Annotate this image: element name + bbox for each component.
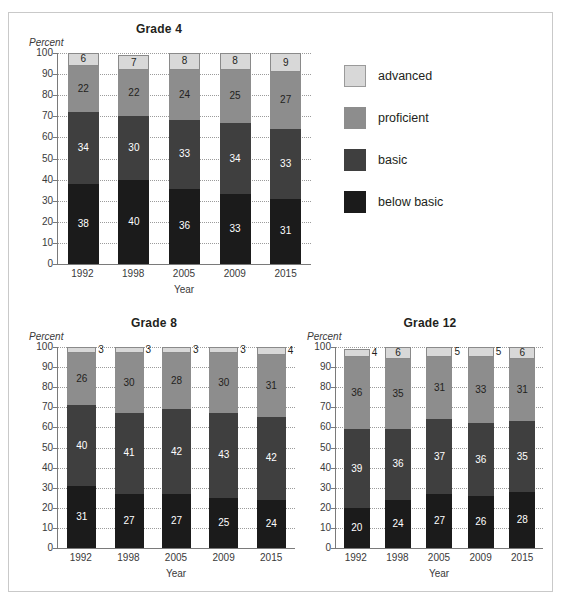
value-label-grade-4-1998-below-basic: 40 — [128, 217, 139, 227]
segment-grade-8-1992-proficient: 26 — [67, 353, 96, 405]
legend-item-proficient[interactable]: proficient — [344, 107, 443, 129]
bar-grade-8-2009[interactable]: 3304325 — [209, 347, 238, 548]
x-tick-grade-8-2005: 2005 — [152, 552, 199, 563]
bar-grade-12-1992[interactable]: 4363920 — [344, 347, 370, 548]
segment-grade-12-1998-advanced: 6 — [385, 347, 411, 359]
bar-grade-12-1998[interactable]: 6353624 — [385, 347, 411, 548]
x-axis-labels-grade-12: 19921998200520092015 — [335, 552, 543, 563]
bar-grade-12-2015[interactable]: 6313528 — [509, 347, 535, 548]
y-tickmark-grade-12-0 — [331, 548, 335, 549]
y-tickmark-grade-8-30 — [53, 488, 57, 489]
segment-grade-12-2005-below-basic: 27 — [426, 494, 452, 548]
bar-grade-8-2005[interactable]: 3284227 — [162, 347, 191, 548]
segment-grade-4-2005-proficient: 24 — [169, 70, 200, 120]
segment-grade-12-2009-basic: 36 — [468, 423, 494, 495]
value-label-grade-4-1998-proficient: 22 — [128, 88, 139, 98]
y-tickmark-grade-8-100 — [53, 347, 57, 348]
x-axis-title-grade-4: Year — [57, 284, 311, 295]
bar-grade-8-2015[interactable]: 4314224 — [257, 347, 286, 548]
chart-panel-grade-12: Grade 12 Percent 43639206353624531372753… — [305, 313, 550, 588]
chart-title-grade-8: Grade 8 — [59, 316, 249, 330]
bar-grade-4-2015[interactable]: 9273331 — [270, 53, 301, 264]
bar-grade-8-1998[interactable]: 3304127 — [115, 347, 144, 548]
value-label-grade-8-2005-basic: 42 — [171, 447, 182, 457]
value-label-grade-8-1992-proficient: 26 — [76, 374, 87, 384]
value-label-grade-12-2005-below-basic: 27 — [434, 516, 445, 526]
value-label-grade-8-2015-advanced: 4 — [288, 346, 294, 356]
value-label-grade-8-2005-below-basic: 27 — [171, 516, 182, 526]
y-tickmark-grade-4-30 — [53, 201, 57, 202]
bar-grade-8-1992[interactable]: 3264031 — [67, 347, 96, 548]
x-tick-grade-4-1992: 1992 — [57, 268, 108, 279]
x-tick-grade-4-2009: 2009 — [209, 268, 260, 279]
y-tickmark-grade-8-20 — [53, 508, 57, 509]
value-label-grade-8-1992-advanced: 3 — [98, 345, 104, 355]
value-label-grade-4-1992-below-basic: 38 — [78, 219, 89, 229]
legend-item-below-basic[interactable]: below basic — [344, 191, 443, 213]
legend-item-basic[interactable]: basic — [344, 149, 443, 171]
value-label-grade-4-2015-proficient: 27 — [280, 95, 291, 105]
segment-grade-12-1998-below-basic: 24 — [385, 500, 411, 548]
y-tick-grade-4-50: 50 — [31, 154, 53, 164]
y-tickmark-grade-4-90 — [53, 74, 57, 75]
segment-grade-4-1992-below-basic: 38 — [68, 184, 99, 264]
y-tick-grade-12-20: 20 — [309, 503, 331, 513]
y-tickmark-grade-8-50 — [53, 448, 57, 449]
plot-area-grade-12: 43639206353624531372753336266313528 — [335, 347, 543, 549]
segment-grade-12-2005-proficient: 31 — [426, 357, 452, 419]
x-tick-grade-8-1998: 1998 — [105, 552, 152, 563]
segment-grade-4-1998-advanced: 7 — [118, 55, 149, 70]
value-label-grade-12-1998-proficient: 35 — [393, 389, 404, 399]
y-tickmark-grade-8-10 — [53, 528, 57, 529]
value-label-grade-8-2009-advanced: 3 — [240, 345, 246, 355]
y-tick-grade-12-0: 0 — [309, 543, 331, 553]
segment-grade-8-2015-proficient: 31 — [257, 355, 286, 417]
bar-grade-4-1998[interactable]: 7223040 — [118, 53, 149, 264]
y-tick-grade-12-90: 90 — [309, 362, 331, 372]
segment-grade-8-1998-proficient: 30 — [115, 353, 144, 413]
value-label-grade-12-2015-advanced: 6 — [519, 348, 525, 358]
value-label-grade-12-1998-basic: 36 — [393, 459, 404, 469]
legend-item-advanced[interactable]: advanced — [344, 65, 443, 87]
legend-swatch-basic — [344, 149, 366, 171]
value-label-grade-8-2015-below-basic: 24 — [266, 519, 277, 529]
segment-grade-4-2015-basic: 33 — [270, 129, 301, 199]
y-tick-grade-12-40: 40 — [309, 463, 331, 473]
value-label-grade-4-1998-basic: 30 — [128, 143, 139, 153]
y-tickmark-grade-8-70 — [53, 407, 57, 408]
bar-grade-12-2009[interactable]: 5333626 — [468, 347, 494, 548]
value-label-grade-12-2009-below-basic: 26 — [475, 517, 486, 527]
bar-grade-4-2009[interactable]: 8253433 — [220, 53, 251, 264]
y-tickmark-grade-8-80 — [53, 387, 57, 388]
value-label-grade-8-1998-proficient: 30 — [124, 378, 135, 388]
value-label-grade-12-1992-basic: 39 — [351, 464, 362, 474]
value-label-grade-4-1998-advanced: 7 — [131, 58, 137, 68]
segment-grade-4-2015-below-basic: 31 — [270, 199, 301, 264]
segment-grade-8-1998-basic: 41 — [115, 413, 144, 495]
value-label-grade-8-2009-proficient: 30 — [218, 378, 229, 388]
value-label-grade-8-1998-basic: 41 — [124, 448, 135, 458]
y-tick-grade-8-30: 30 — [31, 483, 53, 493]
bar-grade-12-2005[interactable]: 5313727 — [426, 347, 452, 548]
value-label-grade-8-2005-advanced: 3 — [193, 345, 199, 355]
value-label-grade-8-2005-proficient: 28 — [171, 376, 182, 386]
segment-grade-12-2015-proficient: 31 — [509, 359, 535, 421]
y-tickmark-grade-12-80 — [331, 387, 335, 388]
segment-grade-8-2015-advanced: 4 — [257, 347, 286, 355]
segment-grade-12-2009-below-basic: 26 — [468, 496, 494, 548]
chart-title-grade-12: Grade 12 — [335, 316, 525, 330]
y-tick-grade-8-40: 40 — [31, 463, 53, 473]
legend: advanced proficient basic below basic — [344, 65, 443, 233]
value-label-grade-4-2005-basic: 33 — [179, 149, 190, 159]
legend-label-basic: basic — [378, 153, 407, 167]
legend-label-below-basic: below basic — [378, 195, 443, 209]
y-tick-grade-8-20: 20 — [31, 503, 53, 513]
value-label-grade-12-2009-advanced: 5 — [496, 347, 502, 357]
y-tickmark-grade-4-70 — [53, 116, 57, 117]
y-tick-grade-4-60: 60 — [31, 132, 53, 142]
bar-grade-4-2005[interactable]: 8243336 — [169, 53, 200, 264]
bar-grade-4-1992[interactable]: 6223438 — [68, 53, 99, 264]
y-tick-grade-12-10: 10 — [309, 523, 331, 533]
value-label-grade-4-2005-proficient: 24 — [179, 90, 190, 100]
segment-grade-12-2009-proficient: 33 — [468, 357, 494, 423]
